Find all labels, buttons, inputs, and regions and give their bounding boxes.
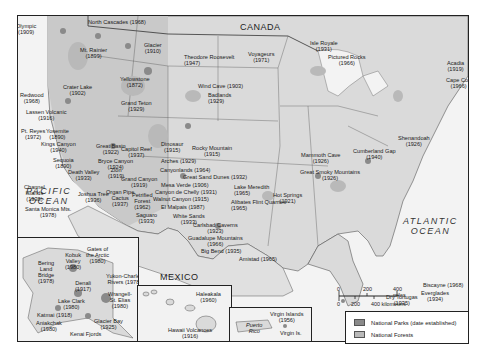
park-label: Voyageurs(1971) xyxy=(248,51,274,63)
park-label: Hawaii Volcanoes(1916) xyxy=(168,327,212,339)
park-label: Everglades(1934) xyxy=(421,290,449,302)
park-label: Canyon de Chelly (1931) xyxy=(155,189,217,195)
hawaii-inset: Haleakala(1960) Hawaii Volcanoes(1916) xyxy=(137,285,232,342)
park-label: Sequoia(1890) xyxy=(53,157,74,169)
ocean-label-atlantic: ATLANTICOCEAN xyxy=(403,216,458,236)
country-label-canada: CANADA xyxy=(240,22,281,32)
park-label: Rocky Mountain(1915) xyxy=(192,145,232,157)
park-label: Biscayne (1968) xyxy=(423,282,463,288)
park-label: Lake Clark(1980) xyxy=(58,298,85,310)
country-label-mexico: MEXICO xyxy=(160,272,199,282)
legend-item-forests: National Forests xyxy=(354,331,413,338)
park-label: Great Smoky Mountains(1926) xyxy=(300,169,360,181)
park-label: Katmai (1918) xyxy=(37,312,72,318)
park-label: Olympic(1909) xyxy=(17,23,36,35)
park-label: Great Sand Dunes (1932) xyxy=(183,174,247,180)
park-label: KobukValley(1980) xyxy=(65,252,81,270)
park-label: Shenandoah(1926) xyxy=(398,135,430,147)
park-label: Guadalupe Mountains(1966) xyxy=(188,235,243,247)
park-label: Death Valley(1933) xyxy=(68,169,99,181)
puerto-rico-inset: Virgin Islands(1956) PuertoRico Virgin I… xyxy=(229,307,312,342)
park-label: Pt. Reyes(1972) xyxy=(21,128,45,140)
park-label: Glacier Bay(1925) xyxy=(94,318,123,330)
park-label: Mt. Rainier(1899) xyxy=(80,47,107,59)
park-label: Organ PipeCactus(1937) xyxy=(106,189,134,207)
park-label: Crater Lake(1902) xyxy=(63,84,92,96)
park-label: Hot Springs(1921) xyxy=(273,192,302,204)
park-label: Pictured Rocks(1966) xyxy=(328,54,366,66)
park-label: Glacier(1910) xyxy=(144,42,162,54)
park-label: Kings Canyon(1940) xyxy=(41,141,76,153)
park-label: Wrangell-St. Elias(1980) xyxy=(108,291,132,309)
park-label: Wind Cave (1903) xyxy=(198,83,243,89)
park-label: Mammoth Cave(1926) xyxy=(301,152,340,164)
park-label: Joshua Tree(1936) xyxy=(78,191,109,203)
park-label: Badlands(1929) xyxy=(208,92,231,104)
forests-swatch xyxy=(354,331,365,338)
park-label: Aniakchak(1980) xyxy=(36,320,62,332)
park-label: Amistad (1965) xyxy=(239,256,277,262)
park-label: Mesa Verde (1906) xyxy=(161,182,209,188)
park-label: PetrifiedForest(1962) xyxy=(132,192,153,210)
alaska-inset: KobukValley(1980) Gates ofthe Arctic(198… xyxy=(17,237,139,342)
park-label: Haleakala(1960) xyxy=(196,291,221,303)
park-label: Isle Royale(1931) xyxy=(310,40,338,52)
park-label: Grand Canyon(1919) xyxy=(121,176,157,188)
park-label: Canyonlands (1964) xyxy=(160,167,210,173)
park-label: BeringLandBridge(1978) xyxy=(38,260,54,284)
park-label: ChannelIslands(1938) xyxy=(24,184,45,202)
territory-label-puerto-rico: PuertoRico xyxy=(246,322,262,334)
park-label: Cape Cod(1966) xyxy=(446,77,469,89)
park-label: Saguaro(1933) xyxy=(136,212,157,224)
park-label: Grand Teton(1929) xyxy=(121,100,152,112)
park-label: Redwood(1968) xyxy=(20,92,44,104)
park-label: Yosemite(1890) xyxy=(46,128,69,140)
scale-bar: 0 200 400 miles 0 200 400 kilometers xyxy=(337,286,412,308)
park-label: El Malpais (1987) xyxy=(161,204,205,210)
park-label: Yukon-CharleyRivers (1978) xyxy=(106,273,139,285)
park-label: Arches (1929) xyxy=(161,158,196,164)
park-label: Walnut Canyon (1915) xyxy=(153,196,209,202)
park-label: Yellowstone(1872) xyxy=(120,76,150,88)
park-label: Lassen Volcanic(1916) xyxy=(26,109,66,121)
park-label: Theodore Roosevelt(1947) xyxy=(184,54,234,66)
park-label: Cumberland Gap(1940) xyxy=(353,148,396,160)
park-label: Carlsbad Caverns(1923) xyxy=(193,222,238,234)
park-label: Virgin Islands(1956) xyxy=(270,311,303,323)
park-label: Dinosaur(1915) xyxy=(161,141,183,153)
park-label: Denali(1917) xyxy=(75,280,91,292)
park-label: Capitol Reef(1937) xyxy=(121,146,152,158)
park-label: North Cascades (1968) xyxy=(88,19,146,25)
park-label: Lake Meredith(1965) xyxy=(234,184,269,196)
territory-label-virgin-is: Virgin Is. xyxy=(280,330,302,336)
park-label: Kenai Fjords xyxy=(70,331,101,337)
legend-item-parks: National Parks (date established) xyxy=(354,319,456,326)
parks-swatch xyxy=(354,319,365,326)
map-legend: National Parks (date established) Nation… xyxy=(345,311,469,344)
park-label: Acadia(1919) xyxy=(447,60,464,72)
park-label: Big Bend (1935) xyxy=(201,248,241,254)
park-label: Gates ofthe Arctic(1980) xyxy=(86,246,109,264)
park-label: Santa Monica Mts.(1978) xyxy=(25,206,71,218)
